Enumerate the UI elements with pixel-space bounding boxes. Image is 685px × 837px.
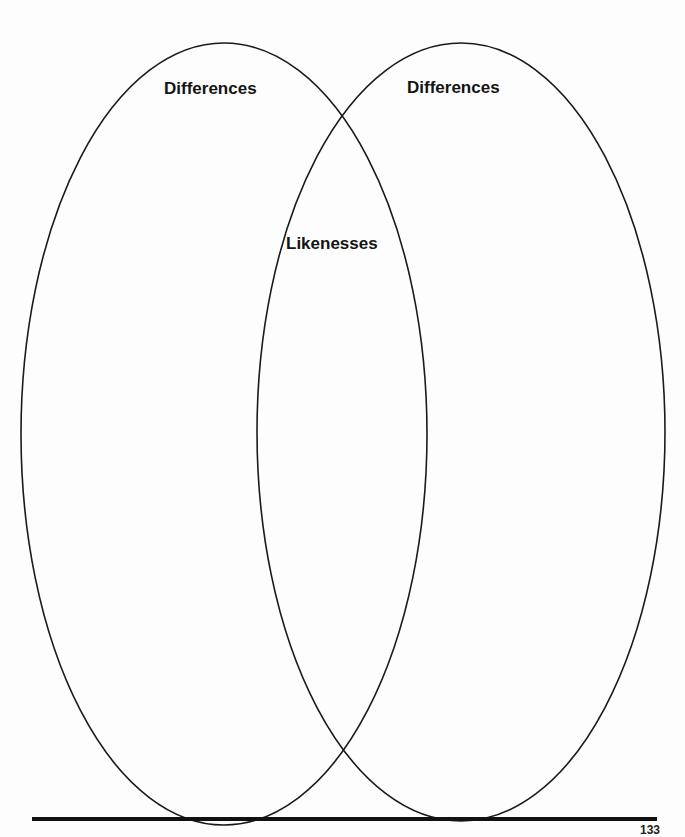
likenesses-label: Likenesses — [286, 234, 378, 254]
left-ellipse — [21, 43, 427, 825]
footer-rule — [32, 817, 657, 821]
right-ellipse — [257, 43, 665, 821]
page-number: 133 — [640, 823, 660, 837]
right-differences-label: Differences — [407, 78, 500, 98]
left-differences-label: Differences — [164, 79, 257, 99]
